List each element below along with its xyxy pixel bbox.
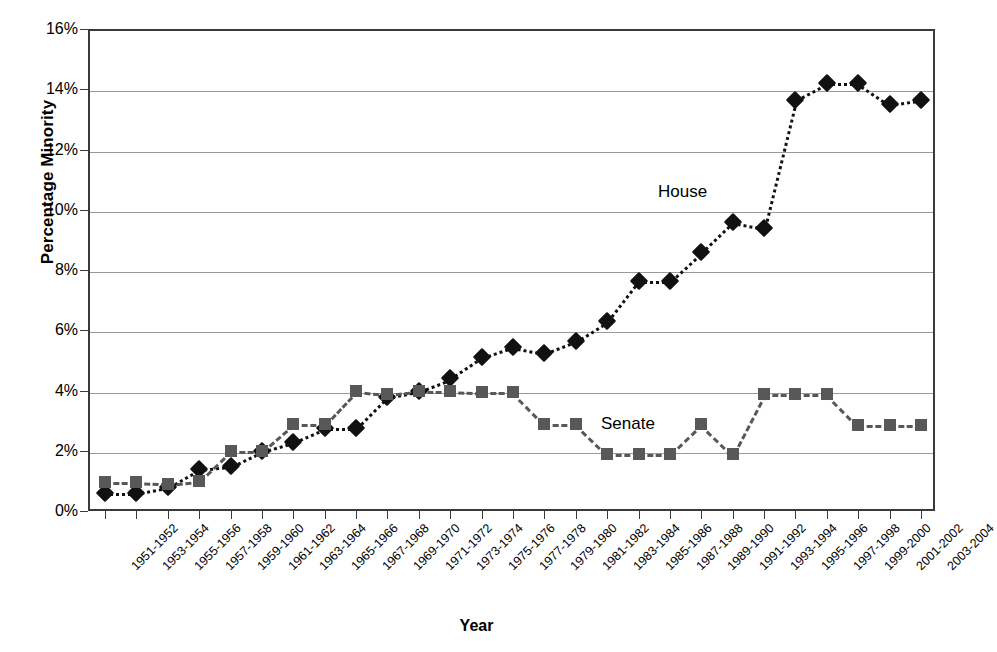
data-point-senate[interactable] — [381, 388, 393, 400]
y-axis-tick-label: 4% — [26, 382, 78, 400]
x-axis-tick-mark — [419, 511, 420, 519]
x-axis-tick-mark — [795, 511, 796, 519]
data-point-senate[interactable] — [758, 388, 770, 400]
x-axis-tick-mark — [482, 511, 483, 519]
x-axis-title: Year — [0, 617, 953, 635]
series-label-house: House — [658, 182, 707, 202]
x-axis-tick-mark — [733, 511, 734, 519]
x-axis-tick-mark — [890, 511, 891, 519]
x-axis-tick-mark — [827, 511, 828, 519]
data-point-senate[interactable] — [852, 419, 864, 431]
data-point-senate[interactable] — [915, 419, 927, 431]
gridline — [90, 453, 933, 454]
x-axis-tick-mark — [293, 511, 294, 519]
data-point-senate[interactable] — [350, 385, 362, 397]
y-axis-tick-label: 14% — [26, 80, 78, 98]
data-point-senate[interactable] — [130, 476, 142, 488]
data-point-senate[interactable] — [570, 418, 582, 430]
data-point-senate[interactable] — [413, 385, 425, 397]
gridline — [90, 91, 933, 92]
y-axis-tick-label: 16% — [26, 20, 78, 38]
x-axis-tick-mark — [325, 511, 326, 519]
x-axis-tick-mark — [262, 511, 263, 519]
y-axis-tick-mark — [80, 29, 88, 30]
y-axis-tick-mark — [80, 451, 88, 452]
x-axis-tick-mark — [105, 511, 106, 519]
x-axis-tick-mark — [576, 511, 577, 519]
data-point-senate[interactable] — [256, 445, 268, 457]
data-point-senate[interactable] — [319, 418, 331, 430]
y-axis-tick-mark — [80, 210, 88, 211]
y-axis-tick-mark — [80, 150, 88, 151]
gridline — [90, 152, 933, 153]
x-axis-tick-mark — [670, 511, 671, 519]
x-axis-tick-mark — [168, 511, 169, 519]
data-point-senate[interactable] — [789, 388, 801, 400]
x-axis-tick-mark — [231, 511, 232, 519]
data-point-senate[interactable] — [162, 478, 174, 490]
data-point-senate[interactable] — [225, 445, 237, 457]
data-point-senate[interactable] — [444, 385, 456, 397]
data-point-senate[interactable] — [664, 448, 676, 460]
gridline — [90, 272, 933, 273]
data-point-senate[interactable] — [538, 418, 550, 430]
data-point-senate[interactable] — [695, 418, 707, 430]
data-point-senate[interactable] — [193, 475, 205, 487]
x-axis-tick-mark — [387, 511, 388, 519]
x-axis-tick-mark — [701, 511, 702, 519]
x-axis-tick-mark — [607, 511, 608, 519]
series-label-senate: Senate — [601, 414, 655, 434]
data-point-senate[interactable] — [633, 448, 645, 460]
y-axis-tick-mark — [80, 270, 88, 271]
data-point-senate[interactable] — [99, 476, 111, 488]
y-axis-tick-label: 6% — [26, 321, 78, 339]
y-axis-tick-mark — [80, 330, 88, 331]
plot-area — [88, 29, 935, 511]
x-axis-tick-mark — [858, 511, 859, 519]
y-axis-tick-label: 10% — [26, 201, 78, 219]
y-axis-tick-label: 12% — [26, 141, 78, 159]
x-axis-tick-mark — [639, 511, 640, 519]
data-point-senate[interactable] — [884, 419, 896, 431]
x-axis-tick-mark — [450, 511, 451, 519]
gridline — [90, 332, 933, 333]
data-point-senate[interactable] — [821, 388, 833, 400]
y-axis-tick-label: 8% — [26, 261, 78, 279]
data-point-senate[interactable] — [476, 386, 488, 398]
x-axis-tick-mark — [544, 511, 545, 519]
x-axis-tick-mark — [921, 511, 922, 519]
data-point-senate[interactable] — [507, 386, 519, 398]
y-axis-tick-label: 2% — [26, 442, 78, 460]
x-axis-tick-mark — [356, 511, 357, 519]
x-axis-tick-mark — [513, 511, 514, 519]
x-axis-tick-mark — [136, 511, 137, 519]
data-point-senate[interactable] — [287, 418, 299, 430]
y-axis-tick-mark — [80, 511, 88, 512]
y-axis-tick-mark — [80, 391, 88, 392]
data-point-senate[interactable] — [727, 448, 739, 460]
y-axis-tick-label: 0% — [26, 502, 78, 520]
plot-inner — [90, 31, 933, 509]
x-axis-tick-mark — [764, 511, 765, 519]
gridline — [90, 212, 933, 213]
data-point-senate[interactable] — [601, 448, 613, 460]
y-axis-tick-mark — [80, 89, 88, 90]
x-axis-tick-mark — [199, 511, 200, 519]
